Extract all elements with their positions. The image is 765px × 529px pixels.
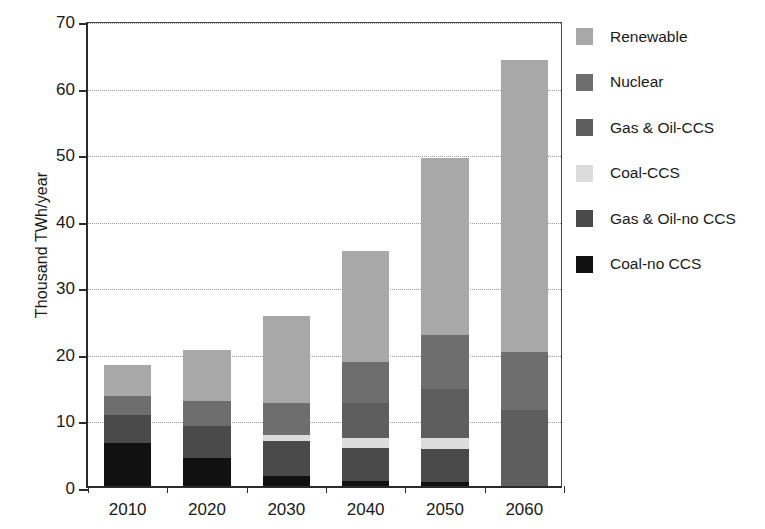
bar-segment-gas-oil-no-ccs[interactable] [183,426,231,458]
y-axis-tick-label: 50 [56,146,75,166]
legend-item-label: Renewable [610,28,688,46]
y-axis-title: Thousand TWh/year [33,125,51,365]
x-axis-tick-label: 2020 [188,500,226,520]
y-axis-tick-label: 20 [56,346,75,366]
x-axis-tick-label: 2030 [267,500,305,520]
bar-segment-renewable[interactable] [263,316,311,403]
legend-item[interactable]: Nuclear [576,60,765,106]
y-axis-tick-label: 0 [66,479,75,499]
bar-segment-renewable[interactable] [501,60,549,352]
legend-item-label: Gas & Oil-no CCS [610,210,736,228]
x-axis-tick [405,486,406,493]
bar-segment-coal-no-ccs[interactable] [183,458,231,486]
bar-segment-coal-ccs[interactable] [342,438,390,448]
x-axis-tick [247,486,248,493]
bar-segment-renewable[interactable] [342,251,390,362]
legend-swatch-icon [576,165,593,182]
gridline [88,289,561,290]
gridline [88,90,561,91]
legend-item[interactable]: Renewable [576,14,765,60]
bar-segment-renewable[interactable] [183,350,231,401]
bar-2060[interactable] [501,20,549,486]
y-axis-tick [79,356,88,358]
x-axis-tick [564,486,565,493]
bar-segment-coal-no-ccs[interactable] [104,443,152,486]
y-axis-tick [79,23,88,25]
y-axis-tick-label: 60 [56,80,75,100]
x-axis-tick-label: 2060 [505,500,543,520]
y-axis-tick [79,289,88,291]
gridline [88,422,561,423]
bar-2030[interactable] [263,20,311,486]
bar-segment-gas-oil-no-ccs[interactable] [263,441,311,476]
plot-area: 010203040506070 201020202030204020502060 [86,22,562,488]
legend-swatch-icon [576,210,593,227]
legend-item[interactable]: Coal-CCS [576,151,765,197]
bar-segment-nuclear[interactable] [342,362,390,403]
bar-2010[interactable] [104,20,152,486]
bar-segment-nuclear[interactable] [263,403,311,435]
bar-segment-coal-ccs[interactable] [421,438,469,449]
gridline [88,156,561,157]
bar-segment-gas-oil-no-ccs[interactable] [342,448,390,481]
bar-segment-coal-no-ccs[interactable] [263,476,311,486]
legend-swatch-icon [576,119,593,136]
bar-segment-nuclear[interactable] [183,401,231,426]
bar-segment-coal-ccs[interactable] [263,435,311,442]
bar-segment-coal-no-ccs[interactable] [342,481,390,486]
bar-2050[interactable] [421,20,469,486]
x-axis-tick [485,486,486,493]
x-axis-tick-label: 2040 [347,500,385,520]
x-axis-tick-label: 2050 [426,500,464,520]
bar-segment-renewable[interactable] [104,365,152,396]
chart-figure: Thousand TWh/year 010203040506070 201020… [0,0,765,529]
legend-item[interactable]: Coal-no CCS [576,242,765,288]
legend-item-label: Coal-no CCS [610,255,701,273]
y-axis-tick-label: 70 [56,13,75,33]
legend-swatch-icon [576,28,593,45]
bar-segment-coal-no-ccs[interactable] [421,482,469,486]
x-axis-tick [88,486,89,493]
gridline [88,223,561,224]
bar-2020[interactable] [183,20,231,486]
gridline [88,23,561,24]
x-axis-tick [167,486,168,493]
y-axis-tick [79,223,88,225]
bar-segment-gas-oil-ccs[interactable] [501,410,549,486]
y-axis-tick-label: 40 [56,213,75,233]
legend-item-label: Nuclear [610,73,663,91]
bar-segment-gas-oil-ccs[interactable] [342,403,390,438]
chart-legend: RenewableNuclearGas & Oil-CCSCoal-CCSGas… [576,14,765,287]
bar-segment-nuclear[interactable] [501,352,549,410]
bar-segment-gas-oil-no-ccs[interactable] [421,449,469,482]
legend-item-label: Gas & Oil-CCS [610,119,714,137]
gridline [88,356,561,357]
legend-swatch-icon [576,256,593,273]
bar-segment-gas-oil-ccs[interactable] [421,389,469,438]
y-axis-tick-label: 10 [56,412,75,432]
legend-swatch-icon [576,74,593,91]
bar-segment-renewable[interactable] [421,158,469,335]
y-axis-tick [79,422,88,424]
bar-segment-nuclear[interactable] [421,335,469,390]
legend-item-label: Coal-CCS [610,164,680,182]
bar-segment-gas-oil-no-ccs[interactable] [104,415,152,443]
bar-2040[interactable] [342,20,390,486]
legend-item[interactable]: Gas & Oil-no CCS [576,196,765,242]
x-axis-tick-label: 2010 [109,500,147,520]
y-axis-tick [79,156,88,158]
y-axis-tick [79,489,88,491]
y-axis-tick-label: 30 [56,279,75,299]
y-axis-tick [79,90,88,92]
legend-item[interactable]: Gas & Oil-CCS [576,105,765,151]
bar-segment-nuclear[interactable] [104,396,152,415]
x-axis-tick [326,486,327,493]
